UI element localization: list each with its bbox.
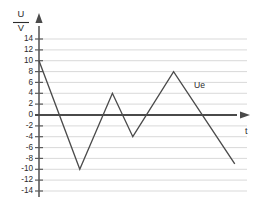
- y-axis-label-denominator: V: [18, 22, 25, 33]
- x-axis: [35, 111, 250, 118]
- x-axis-label: t: [245, 126, 248, 136]
- y-tick-label: -12: [21, 175, 33, 184]
- y-tick-label: -14: [21, 186, 33, 195]
- y-tick-labels: 14 12 10 8 6 4 2 0 -2 -4 -6 -8 -10 -12 -…: [21, 34, 33, 195]
- y-tick-label: -6: [26, 143, 34, 152]
- y-tick-label: 4: [28, 88, 33, 97]
- y-axis-arrow-icon: [35, 13, 42, 23]
- y-axis-label-numerator: U: [18, 8, 25, 19]
- voltage-time-chart: 14 12 10 8 6 4 2 0 -2 -4 -6 -8 -10 -12 -…: [0, 0, 263, 216]
- series-annotation-ue: Ue: [194, 80, 205, 90]
- y-tick-label: 10: [24, 56, 34, 65]
- y-tick-label: -8: [26, 154, 34, 163]
- y-axis-label: U V: [13, 8, 29, 33]
- y-tick-label: 8: [28, 67, 33, 76]
- y-tick-label: -4: [26, 132, 34, 141]
- chart-svg: 14 12 10 8 6 4 2 0 -2 -4 -6 -8 -10 -12 -…: [0, 0, 263, 216]
- y-tick-label: 12: [24, 45, 34, 54]
- y-tick-label: 2: [28, 99, 33, 108]
- y-tick-label: -10: [21, 164, 33, 173]
- y-tick-label: 0: [28, 110, 33, 119]
- y-tick-label: 14: [24, 34, 34, 43]
- x-axis-arrow-icon: [240, 111, 250, 118]
- y-tick-label: -2: [26, 121, 34, 130]
- y-tick-label: 6: [28, 78, 33, 87]
